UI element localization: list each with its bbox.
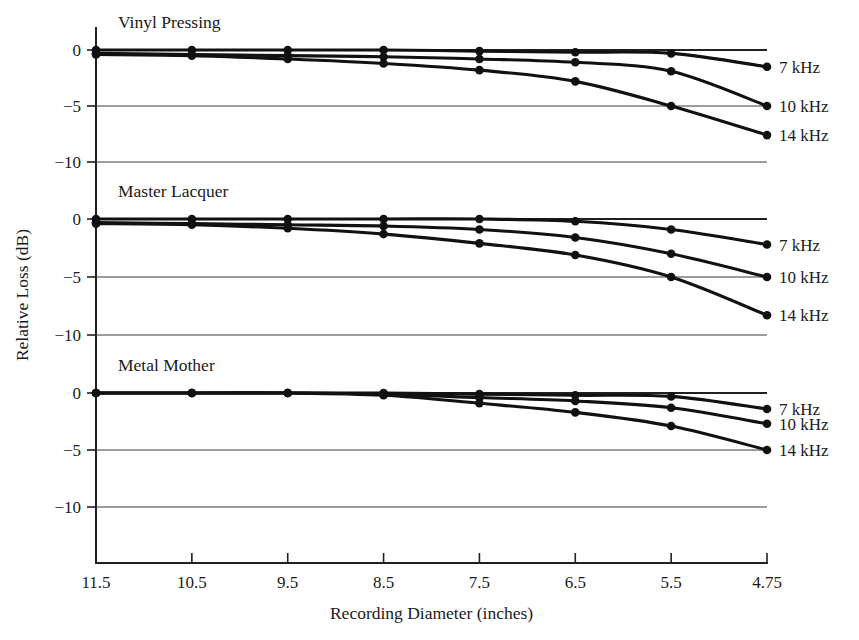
data-point <box>571 251 580 260</box>
data-point <box>475 55 484 64</box>
panel-title-metal-mother: Metal Mother <box>118 355 215 375</box>
x-axis-ticks: 11.510.59.58.57.56.55.54.75 <box>81 553 781 592</box>
data-point <box>475 47 484 56</box>
data-point <box>571 408 580 417</box>
x-tick-label-10.5: 10.5 <box>177 573 207 592</box>
data-point <box>571 58 580 67</box>
data-point <box>667 102 676 111</box>
panel-title-master-lacquer: Master Lacquer <box>118 181 228 201</box>
data-point <box>92 219 101 228</box>
y-tick-label-vinyl-pressing-0: 0 <box>73 41 82 60</box>
data-point <box>667 392 676 401</box>
data-point <box>763 405 772 414</box>
y-tick-label-master-lacquer-0: 0 <box>73 210 82 229</box>
x-axis-title: Recording Diameter (inches) <box>330 603 533 623</box>
data-point <box>571 233 580 242</box>
x-tick-label-5.5: 5.5 <box>661 573 682 592</box>
y-tick-label-metal-mother-0: 0 <box>73 384 82 403</box>
data-point <box>667 422 676 431</box>
data-point <box>763 419 772 428</box>
data-point <box>763 63 772 72</box>
y-tick-label-metal-mother-5: −5 <box>63 441 81 460</box>
data-point <box>379 59 388 68</box>
x-tick-label-9.5: 9.5 <box>277 573 298 592</box>
data-point <box>475 399 484 408</box>
series-label-14-khz: 14 kHz <box>779 306 829 325</box>
x-tick-label-11.5: 11.5 <box>81 573 110 592</box>
data-point <box>763 273 772 282</box>
series-label-7-khz: 7 kHz <box>779 58 821 77</box>
panel-master-lacquer: 0−5−10Master Lacquer7 kHz10 kHz14 kHz <box>54 181 829 345</box>
panel-metal-mother: 0−5−10Metal Mother7 kHz10 kHz14 kHz <box>54 355 829 517</box>
series-curve-10-khz <box>96 222 767 277</box>
relative-loss-line-chart: 11.510.59.58.57.56.55.54.75Recording Dia… <box>0 0 859 640</box>
data-point <box>763 311 772 320</box>
series-curve-14-khz <box>96 393 767 450</box>
data-point <box>379 391 388 400</box>
data-point <box>92 50 101 59</box>
data-point <box>379 230 388 239</box>
data-point <box>571 48 580 57</box>
series-label-7-khz: 7 kHz <box>779 236 821 255</box>
data-point <box>475 66 484 75</box>
chart-figure: 11.510.59.58.57.56.55.54.75Recording Dia… <box>0 0 859 640</box>
data-point <box>667 225 676 234</box>
data-point <box>763 240 772 249</box>
panel-title-vinyl-pressing: Vinyl Pressing <box>118 12 221 32</box>
data-point <box>667 49 676 58</box>
x-tick-label-4.75: 4.75 <box>752 573 782 592</box>
data-point <box>283 55 292 64</box>
data-point <box>667 67 676 76</box>
y-tick-label-master-lacquer-5: −5 <box>63 268 81 287</box>
series-label-10-khz: 10 kHz <box>779 268 829 287</box>
data-point <box>379 222 388 231</box>
data-point <box>571 77 580 86</box>
data-point <box>475 239 484 248</box>
y-tick-label-vinyl-pressing-5: −5 <box>63 97 81 116</box>
data-point <box>763 446 772 455</box>
data-point <box>283 224 292 233</box>
data-point <box>571 217 580 226</box>
data-point <box>667 250 676 259</box>
y-tick-label-metal-mother-10: −10 <box>54 498 81 517</box>
series-label-10-khz: 10 kHz <box>779 97 829 116</box>
series-curve-14-khz <box>96 224 767 316</box>
data-point <box>763 131 772 140</box>
data-point <box>667 273 676 282</box>
y-tick-label-master-lacquer-10: −10 <box>54 326 81 345</box>
y-axis-title: Relative Loss (dB) <box>12 229 32 361</box>
data-point <box>571 397 580 406</box>
y-axis <box>96 28 767 563</box>
data-point <box>667 404 676 413</box>
x-tick-label-7.5: 7.5 <box>469 573 490 592</box>
series-label-14-khz: 14 kHz <box>779 441 829 460</box>
data-point <box>188 389 197 398</box>
x-tick-label-6.5: 6.5 <box>565 573 586 592</box>
data-point <box>283 389 292 398</box>
data-point <box>188 221 197 230</box>
panel-vinyl-pressing: 0−5−10Vinyl Pressing7 kHz10 kHz14 kHz <box>54 12 829 172</box>
data-point <box>92 389 101 398</box>
series-curve-14-khz <box>96 54 767 135</box>
data-point <box>475 225 484 234</box>
series-label-14-khz: 14 kHz <box>779 126 829 145</box>
x-tick-label-8.5: 8.5 <box>373 573 394 592</box>
data-point <box>763 102 772 111</box>
series-curve-10-khz <box>96 53 767 106</box>
y-tick-label-vinyl-pressing-10: −10 <box>54 153 81 172</box>
series-label-10-khz: 10 kHz <box>779 415 829 434</box>
data-point <box>475 215 484 224</box>
data-point <box>188 51 197 60</box>
